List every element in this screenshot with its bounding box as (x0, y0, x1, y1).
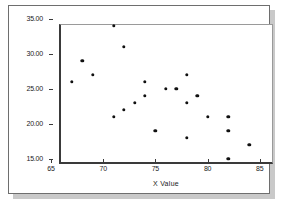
chart-screenshot: 35.0030.0025.0020.0015.00 6570758085 X V… (0, 0, 281, 204)
data-point (122, 45, 125, 48)
x-axis-tick (260, 159, 261, 163)
data-point (122, 108, 125, 111)
data-point (227, 129, 230, 132)
scatter-points-layer (9, 6, 281, 204)
data-point (227, 115, 230, 118)
data-point (133, 101, 136, 104)
x-axis-tick-label: 65 (39, 165, 63, 173)
data-point (81, 59, 84, 62)
x-axis-tick (208, 159, 209, 163)
data-point (227, 157, 230, 160)
data-point (195, 94, 198, 97)
data-point (248, 143, 251, 146)
x-axis-tick (103, 159, 104, 163)
y-axis-tick (49, 124, 53, 125)
data-point (185, 136, 188, 139)
x-axis-tick (51, 159, 52, 163)
chart-object-frame[interactable]: 35.0030.0025.0020.0015.00 6570758085 X V… (8, 5, 270, 194)
x-axis-tick-label: 80 (196, 165, 220, 173)
data-point (154, 129, 157, 132)
y-axis-tick-label: 30.00 (9, 50, 43, 58)
x-axis-title: X Value (106, 180, 226, 188)
y-axis-tick-label: 20.00 (9, 120, 43, 128)
data-point (164, 87, 167, 90)
x-axis-tick-label: 85 (248, 165, 272, 173)
data-point (185, 101, 188, 104)
x-axis-tick-label: 70 (91, 165, 115, 173)
data-point (143, 80, 146, 83)
data-point (175, 87, 178, 90)
y-axis-tick (49, 19, 53, 20)
data-point (143, 94, 146, 97)
data-point (70, 80, 73, 83)
x-axis-tick-label: 75 (143, 165, 167, 173)
data-point (91, 73, 94, 76)
data-point (206, 115, 209, 118)
y-axis-tick-label: 35.00 (9, 15, 43, 23)
y-axis-tick-label: 15.00 (9, 155, 43, 163)
x-axis-tick (155, 159, 156, 163)
data-point (112, 115, 115, 118)
y-axis-tick (49, 54, 53, 55)
data-point (185, 73, 188, 76)
data-point (112, 24, 115, 27)
y-axis-tick (49, 89, 53, 90)
y-axis-tick-label: 25.00 (9, 85, 43, 93)
